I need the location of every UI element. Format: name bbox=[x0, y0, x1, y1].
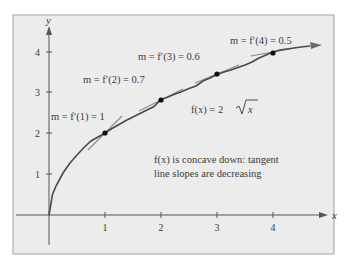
y-tick-label: 4 bbox=[35, 47, 40, 58]
function-radicand: x bbox=[247, 104, 253, 115]
y-tick-label: 2 bbox=[35, 128, 40, 139]
point-x2 bbox=[158, 97, 163, 102]
slope-label-2: m = f′(2) = 0.7 bbox=[83, 74, 145, 86]
x-tick-label: 2 bbox=[159, 222, 164, 233]
slope-label-3: m = f′(3) = 0.6 bbox=[138, 51, 200, 63]
x-tick-label: 1 bbox=[103, 222, 108, 233]
x-tick-label: 4 bbox=[271, 222, 276, 233]
x-axis-label: x bbox=[331, 209, 337, 221]
point-x3 bbox=[214, 71, 219, 76]
point-x4 bbox=[270, 50, 275, 55]
y-tick-label: 1 bbox=[35, 169, 40, 180]
concavity-note-line1: f(x) is concave down: tangent bbox=[154, 154, 279, 166]
chart-figure: 1 2 3 4 1 2 3 4 x y m = f′(1) = 1 m = f′… bbox=[0, 0, 347, 269]
function-label-text: f(x) = 2 bbox=[191, 104, 223, 116]
slope-label-4: m = f′(4) = 0.5 bbox=[230, 35, 292, 47]
point-x1 bbox=[102, 130, 107, 135]
y-tick-label: 3 bbox=[35, 87, 40, 98]
chart-svg: 1 2 3 4 1 2 3 4 x y m = f′(1) = 1 m = f′… bbox=[0, 0, 347, 269]
y-axis-label: y bbox=[45, 14, 51, 26]
slope-label-1: m = f′(1) = 1 bbox=[51, 111, 105, 123]
x-tick-label: 3 bbox=[215, 222, 220, 233]
concavity-note-line2: line slopes are decreasing bbox=[154, 168, 262, 179]
